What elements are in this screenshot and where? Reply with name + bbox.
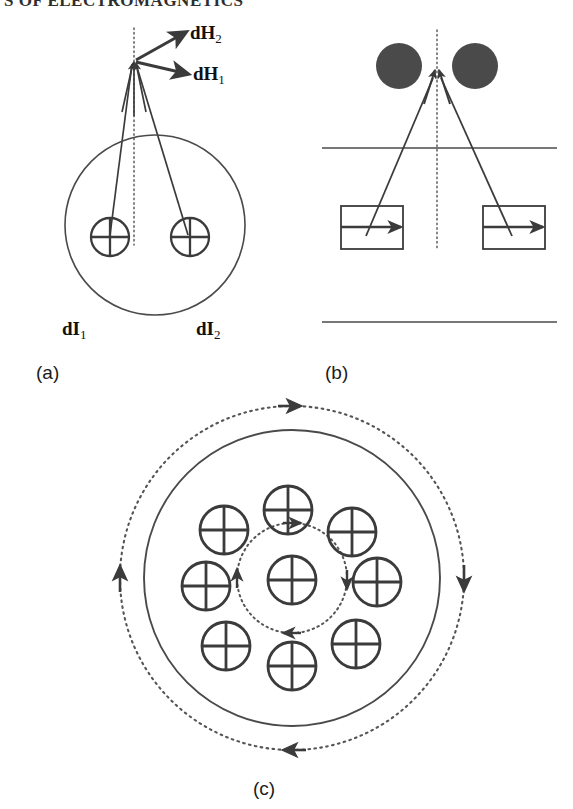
panel-c-current-symbol-5-center [268, 556, 316, 604]
panel-c-current-symbol-7 [202, 622, 250, 670]
panel-c-current-symbol-2 [264, 486, 312, 534]
panel-c-current-symbol-3 [328, 508, 376, 556]
panel-b-filled-circle-left [376, 43, 422, 89]
panel-a-vector-dH1 [136, 62, 188, 74]
caption-panel-b: (b) [325, 362, 348, 384]
panel-c-current-symbol-6 [353, 558, 401, 606]
panel-a-vector-dH2 [136, 32, 186, 60]
caption-panel-a: (a) [36, 362, 59, 384]
panel-b-current-element-left [341, 206, 403, 249]
figure-svg [0, 0, 573, 809]
figure-root: S OF ELECTROMAGNETICS [0, 0, 573, 809]
panel-a-ray-left [110, 64, 132, 235]
panel-c-current-symbol-9 [332, 620, 380, 668]
label-dH2: dH2 [190, 22, 222, 47]
caption-panel-c: (c) [253, 778, 275, 800]
panel-c-current-symbol-1 [200, 506, 248, 554]
panel-a-current-symbol-2 [171, 218, 209, 256]
panel-b-arrow-converge-left [424, 70, 435, 104]
panel-b-ray-right [441, 78, 512, 236]
label-dI2: dI2 [196, 318, 220, 343]
panel-b-arrow-converge-right [439, 70, 450, 104]
panel-c [120, 406, 464, 750]
panel-b-ray-left [366, 78, 433, 236]
panel-c-current-symbol-8 [268, 642, 316, 690]
panel-b-filled-circle-right [452, 43, 498, 89]
panel-a-ray-right [136, 64, 188, 235]
label-dI1: dI1 [62, 318, 86, 343]
panel-a-conductor-circle [65, 135, 245, 315]
panel-a-current-symbol-1 [91, 218, 129, 256]
panel-c-current-symbol-4 [182, 562, 230, 610]
panel-b [322, 30, 557, 322]
panel-a-arrow-converge-right [136, 63, 146, 112]
label-dH1: dH1 [193, 63, 225, 88]
panel-b-current-element-right [483, 206, 545, 249]
